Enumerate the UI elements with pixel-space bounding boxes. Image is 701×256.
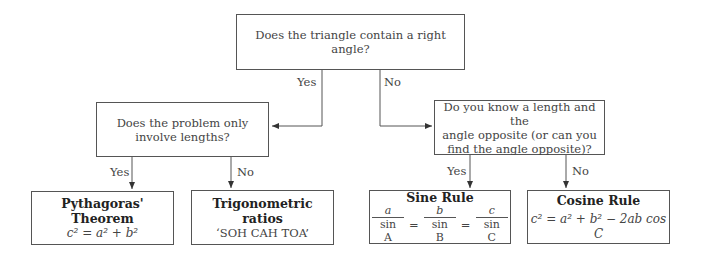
pythagoras-title-line1: Pythagoras': [61, 196, 143, 211]
right-question-line1: Do you know a length and the: [435, 100, 604, 128]
cosine-rule-box: Cosine Rule c² = a² + b² − 2ab cos C: [527, 190, 670, 244]
root-yes-label: Yes: [297, 75, 316, 89]
root-question-box: Does the triangle contain a right angle?: [236, 14, 465, 70]
root-question-text: Does the triangle contain a right angle?: [237, 28, 464, 56]
cosine-rule-title: Cosine Rule: [557, 193, 641, 208]
left-yes-label: Yes: [110, 165, 129, 179]
sine-rule-formula: a sin A = b sin B = c sin C: [370, 205, 510, 244]
fraction-a: a sin A: [372, 205, 404, 244]
pythagoras-title-line2: Theorem: [71, 211, 133, 226]
sine-rule-title: Sine Rule: [406, 190, 473, 205]
left-no-label: No: [237, 165, 254, 179]
trig-title-line2: ratios: [242, 211, 283, 226]
left-question-line2: involve lengths?: [135, 130, 230, 144]
fraction-b: b sin B: [424, 205, 456, 244]
pythagoras-formula: c² = a² + b²: [67, 226, 138, 241]
pythagoras-box: Pythagoras' Theorem c² = a² + b²: [31, 191, 174, 245]
right-question-line2: angle opposite (or can you: [442, 128, 597, 142]
trig-mnemonic: ‘SOH CAH TOA’: [216, 226, 309, 240]
right-question-box: Do you know a length and the angle oppos…: [434, 100, 605, 155]
left-question-box: Does the problem only involve lengths?: [96, 102, 269, 157]
trig-ratios-box: Trigonometric ratios ‘SOH CAH TOA’: [191, 190, 334, 245]
sine-rule-box: Sine Rule a sin A = b sin B = c sin C: [369, 190, 511, 244]
fraction-c: c sin C: [476, 205, 509, 244]
right-no-label: No: [572, 164, 589, 178]
cosine-rule-formula: c² = a² + b² − 2ab cos C: [528, 212, 669, 242]
right-yes-label: Yes: [447, 164, 466, 178]
right-question-line3: find the angle opposite)?: [447, 142, 592, 156]
root-no-label: No: [384, 75, 401, 89]
trig-title-line1: Trigonometric: [212, 196, 312, 211]
left-question-line1: Does the problem only: [117, 116, 249, 130]
